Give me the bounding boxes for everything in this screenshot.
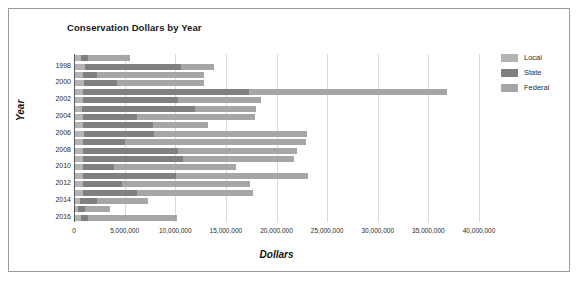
bar-segment-state[interactable]	[83, 72, 97, 78]
bar-segment-local[interactable]	[74, 97, 83, 103]
bar-segment-local[interactable]	[74, 164, 83, 170]
bar-segment-local[interactable]	[74, 148, 83, 154]
y-axis-tick-2000: 2000	[41, 78, 71, 85]
bar-segment-state[interactable]	[81, 215, 88, 221]
legend-swatch-state	[501, 69, 518, 77]
bar-segment-state[interactable]	[83, 89, 249, 95]
bar-segment-federal[interactable]	[154, 131, 307, 137]
bar-segment-local[interactable]	[74, 64, 85, 70]
bar-row[interactable]	[74, 122, 208, 128]
bar-segment-federal[interactable]	[195, 106, 256, 112]
bar-row[interactable]	[74, 198, 148, 204]
gridline	[327, 54, 328, 222]
bar-row[interactable]	[74, 139, 306, 145]
bar-row[interactable]	[74, 190, 253, 196]
bar-segment-state[interactable]	[83, 148, 178, 154]
bar-segment-federal[interactable]	[178, 97, 261, 103]
legend-label-local: Local	[524, 53, 542, 62]
bar-segment-state[interactable]	[83, 181, 121, 187]
bar-segment-federal[interactable]	[114, 164, 236, 170]
bar-segment-state[interactable]	[83, 97, 178, 103]
bar-segment-state[interactable]	[81, 55, 88, 61]
bar-row[interactable]	[74, 106, 256, 112]
bar-segment-state[interactable]	[83, 156, 183, 162]
gridline	[226, 54, 227, 222]
bar-segment-state[interactable]	[80, 198, 97, 204]
bar-row[interactable]	[74, 173, 308, 179]
bar-segment-federal[interactable]	[88, 215, 177, 221]
bar-segment-state[interactable]	[84, 131, 154, 137]
bar-segment-local[interactable]	[74, 106, 82, 112]
bar-segment-federal[interactable]	[97, 198, 148, 204]
y-axis-tick-2012: 2012	[41, 179, 71, 186]
bar-segment-state[interactable]	[83, 122, 153, 128]
bar-segment-local[interactable]	[74, 122, 83, 128]
bar-segment-federal[interactable]	[153, 122, 208, 128]
bar-segment-federal[interactable]	[183, 156, 293, 162]
bar-row[interactable]	[74, 131, 307, 137]
bar-row[interactable]	[74, 181, 250, 187]
y-axis-tick-2010: 2010	[41, 162, 71, 169]
legend-label-federal: Federal	[524, 83, 549, 92]
bar-segment-local[interactable]	[74, 55, 81, 61]
bar-segment-federal[interactable]	[137, 114, 255, 120]
y-axis-tick-2006: 2006	[41, 129, 71, 136]
bar-segment-state[interactable]	[83, 190, 137, 196]
bar-row[interactable]	[74, 80, 204, 86]
bar-segment-federal[interactable]	[178, 148, 296, 154]
bar-segment-federal[interactable]	[176, 173, 308, 179]
legend-item-state[interactable]: State	[501, 68, 565, 77]
bar-segment-state[interactable]	[78, 206, 85, 212]
bar-row[interactable]	[74, 55, 130, 61]
bar-segment-state[interactable]	[83, 139, 125, 145]
bar-segment-local[interactable]	[74, 215, 81, 221]
bar-segment-local[interactable]	[74, 114, 83, 120]
bar-segment-state[interactable]	[82, 106, 195, 112]
bar-row[interactable]	[74, 64, 214, 70]
gridline	[479, 54, 480, 222]
bar-row[interactable]	[74, 206, 110, 212]
bar-segment-state[interactable]	[83, 164, 114, 170]
x-axis-tick-4: 20,000,000	[260, 227, 293, 234]
bar-segment-federal[interactable]	[249, 89, 446, 95]
bar-segment-local[interactable]	[74, 89, 83, 95]
bar-row[interactable]	[74, 148, 297, 154]
legend-item-federal[interactable]: Federal	[501, 83, 565, 92]
bar-segment-federal[interactable]	[88, 55, 130, 61]
bar-row[interactable]	[74, 97, 261, 103]
bar-row[interactable]	[74, 72, 204, 78]
bar-segment-state[interactable]	[83, 114, 137, 120]
bar-segment-federal[interactable]	[117, 80, 204, 86]
bar-row[interactable]	[74, 114, 255, 120]
bar-segment-local[interactable]	[74, 190, 83, 196]
bar-segment-state[interactable]	[83, 173, 176, 179]
bar-segment-federal[interactable]	[122, 181, 251, 187]
bar-segment-local[interactable]	[74, 156, 83, 162]
bar-segment-local[interactable]	[74, 72, 83, 78]
bar-segment-federal[interactable]	[137, 190, 253, 196]
gridline	[378, 54, 379, 222]
bar-segment-local[interactable]	[74, 131, 84, 137]
y-axis-tick-2004: 2004	[41, 112, 71, 119]
bar-row[interactable]	[74, 156, 294, 162]
bar-segment-local[interactable]	[74, 80, 84, 86]
bar-segment-state[interactable]	[85, 64, 181, 70]
bar-segment-federal[interactable]	[125, 139, 306, 145]
bar-segment-federal[interactable]	[85, 206, 110, 212]
bar-segment-federal[interactable]	[181, 64, 213, 70]
y-axis-tick-2002: 2002	[41, 95, 71, 102]
bar-row[interactable]	[74, 215, 177, 221]
bar-row[interactable]	[74, 89, 447, 95]
legend-swatch-local	[501, 54, 518, 62]
x-axis-title: Dollars	[74, 249, 479, 260]
bar-segment-state[interactable]	[84, 80, 116, 86]
bar-segment-local[interactable]	[74, 181, 83, 187]
bar-segment-local[interactable]	[74, 173, 83, 179]
y-axis-tick-2014: 2014	[41, 196, 71, 203]
bar-row[interactable]	[74, 164, 236, 170]
bar-segment-local[interactable]	[74, 139, 83, 145]
legend-item-local[interactable]: Local	[501, 53, 565, 62]
legend-label-state: State	[524, 68, 542, 77]
bar-segment-federal[interactable]	[97, 72, 203, 78]
y-axis-title: Year	[15, 100, 26, 121]
